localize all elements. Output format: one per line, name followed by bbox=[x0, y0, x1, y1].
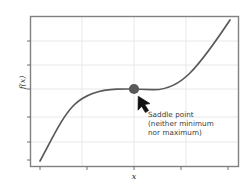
annotation-line-3: nor maximum) bbox=[148, 128, 214, 137]
saddle-point-figure: f(x) x Saddle point (neither minimum nor… bbox=[0, 0, 251, 189]
y-axis-label: f(x) bbox=[18, 70, 27, 96]
plot-canvas bbox=[0, 0, 251, 189]
x-axis-label: x bbox=[119, 172, 149, 181]
saddle-point-annotation: Saddle point (neither minimum nor maximu… bbox=[148, 110, 214, 137]
annotation-line-1: Saddle point bbox=[148, 110, 214, 119]
annotation-line-2: (neither minimum bbox=[148, 119, 214, 128]
saddle-point-marker bbox=[129, 84, 139, 94]
